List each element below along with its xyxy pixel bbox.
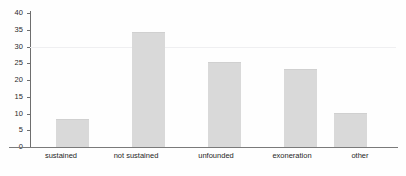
y-tick-label-40: 40 <box>3 9 23 17</box>
y-axis: 40 35 30 25 20 15 10 5 <box>0 0 30 176</box>
gridline-30 <box>30 47 396 48</box>
bar-chart: 40 35 30 25 20 15 10 5 <box>0 0 406 176</box>
y-tick-label-20: 20 <box>3 76 23 84</box>
bar-unfounded <box>208 62 241 147</box>
y-tick-label-15: 15 <box>3 93 23 101</box>
bar-exoneration <box>284 69 317 147</box>
bar-other <box>334 113 367 148</box>
plot-area <box>30 13 396 147</box>
x-axis-line <box>9 147 398 148</box>
y-tick-label-25: 25 <box>3 59 23 67</box>
x-label-other: other <box>330 152 390 160</box>
bar-not-sustained <box>132 32 165 147</box>
y-tick-label-30: 30 <box>3 43 23 51</box>
x-label-sustained: sustained <box>26 152 96 160</box>
x-label-unfounded: unfounded <box>180 152 252 160</box>
y-tick-label-5: 5 <box>3 126 23 134</box>
y-tick-label-35: 35 <box>3 26 23 34</box>
y-tick-label-10: 10 <box>3 110 23 118</box>
x-label-not-sustained: not sustained <box>96 152 176 160</box>
bar-sustained <box>56 119 89 147</box>
x-label-exoneration: exoneration <box>250 152 334 160</box>
